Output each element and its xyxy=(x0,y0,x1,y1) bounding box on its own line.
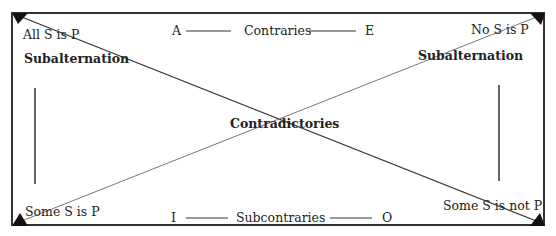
letter-e: E xyxy=(365,25,374,38)
letter-o: O xyxy=(382,212,392,225)
letter-i: I xyxy=(171,212,176,225)
subalternation-left-label: Subalternation xyxy=(24,53,129,66)
proposition-a: All S is P xyxy=(23,29,79,42)
contradictories-label: Contradictories xyxy=(230,118,339,131)
proposition-i: Some S is P xyxy=(25,206,100,219)
subcontraries-label: Subcontraries xyxy=(236,212,325,225)
proposition-e: No S is P xyxy=(471,24,529,37)
contraries-label: Contraries xyxy=(244,25,311,38)
proposition-o: Some S is not P xyxy=(443,200,542,213)
subalternation-right-label: Subalternation xyxy=(418,50,523,63)
letter-a: A xyxy=(172,25,181,38)
